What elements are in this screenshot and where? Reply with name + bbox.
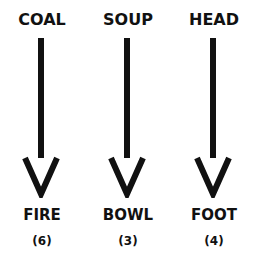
down-arrow-icon — [172, 38, 253, 198]
word-column-1: COAL FIRE (6) — [0, 0, 84, 270]
word-column-2: SOUP BOWL (3) — [86, 0, 170, 270]
top-word: HEAD — [172, 10, 253, 29]
top-word: COAL — [0, 10, 84, 29]
bottom-word: FOOT — [172, 206, 253, 224]
down-arrow-icon — [0, 38, 84, 198]
bottom-word: BOWL — [86, 206, 170, 224]
down-arrow-icon — [86, 38, 170, 198]
word-column-3: HEAD FOOT (4) — [172, 0, 253, 270]
letter-count: (4) — [172, 234, 253, 248]
letter-count: (6) — [0, 234, 84, 248]
bottom-word: FIRE — [0, 206, 84, 224]
top-word: SOUP — [86, 10, 170, 29]
letter-count: (3) — [86, 234, 170, 248]
